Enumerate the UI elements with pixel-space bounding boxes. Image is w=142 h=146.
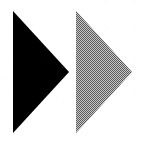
double-arrow-figure: Two solid right-pointing triangles side … — [0, 0, 142, 146]
figure-root: Two solid right-pointing triangles side … — [0, 0, 142, 146]
